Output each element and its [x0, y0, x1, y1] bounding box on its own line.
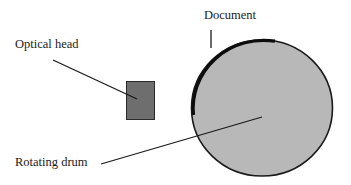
- optical-head-leader-line: [53, 60, 137, 99]
- document-label: Document: [204, 9, 256, 22]
- rotating-drum-label: Rotating drum: [15, 156, 88, 169]
- optical-head-label: Optical head: [15, 38, 79, 51]
- optical-head-shape: [127, 82, 155, 120]
